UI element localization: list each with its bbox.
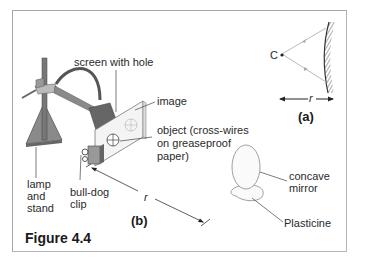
figure-title: Figure 4.4 xyxy=(25,230,91,246)
figure-diagram: C r (a) xyxy=(0,0,365,267)
label-object-line1: object (cross-wires xyxy=(157,124,249,136)
concave-mirror-b xyxy=(232,145,260,189)
centre-label: C xyxy=(270,49,278,61)
arrowhead-b-right-icon xyxy=(198,219,204,223)
distance-start-tick xyxy=(86,164,91,167)
centre-point xyxy=(280,53,283,56)
label-plasticine: Plasticine xyxy=(284,217,331,229)
arrowhead-left-icon xyxy=(279,97,285,102)
label-mirror-line2: mirror xyxy=(289,182,318,194)
distance-label-a: r xyxy=(309,92,314,104)
bull-dog-clip xyxy=(82,144,104,164)
label-object-line3: paper) xyxy=(157,150,189,162)
distance-arrow-b-right xyxy=(155,199,203,222)
leader-plasticine xyxy=(252,198,283,222)
concave-mirror-a xyxy=(324,22,335,93)
label-clip-line2: clip xyxy=(70,198,87,210)
arrowhead-b-left-icon xyxy=(91,168,97,172)
label-screen-with-hole: screen with hole xyxy=(74,56,154,68)
label-lamp-line3: stand xyxy=(27,202,54,214)
label-lamp-line1: lamp xyxy=(27,178,51,190)
concave-mirror-on-plasticine xyxy=(231,145,263,201)
distance-end-tick xyxy=(201,219,210,226)
label-lamp-line2: and xyxy=(27,190,45,202)
panel-a-diagram: C r (a) xyxy=(270,22,335,124)
panel-a-label: (a) xyxy=(298,109,314,124)
leader-clip xyxy=(80,155,81,180)
label-image: image xyxy=(157,95,187,107)
panel-b-label: (b) xyxy=(131,213,148,228)
distance-label-b: r xyxy=(144,191,149,203)
label-mirror-line1: concave xyxy=(289,170,330,182)
label-object-line2: on greaseproof xyxy=(157,137,232,149)
arrowhead-right-icon xyxy=(328,97,334,102)
leader-mirror xyxy=(260,172,287,181)
label-clip-line1: bull-dog xyxy=(70,186,109,198)
